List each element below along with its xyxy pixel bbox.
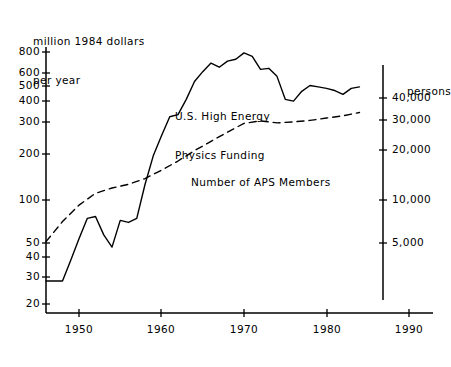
series-line-members — [46, 112, 360, 241]
series-line-funding — [46, 53, 360, 281]
axes-spines — [46, 47, 433, 313]
axis-ticks — [42, 52, 409, 317]
